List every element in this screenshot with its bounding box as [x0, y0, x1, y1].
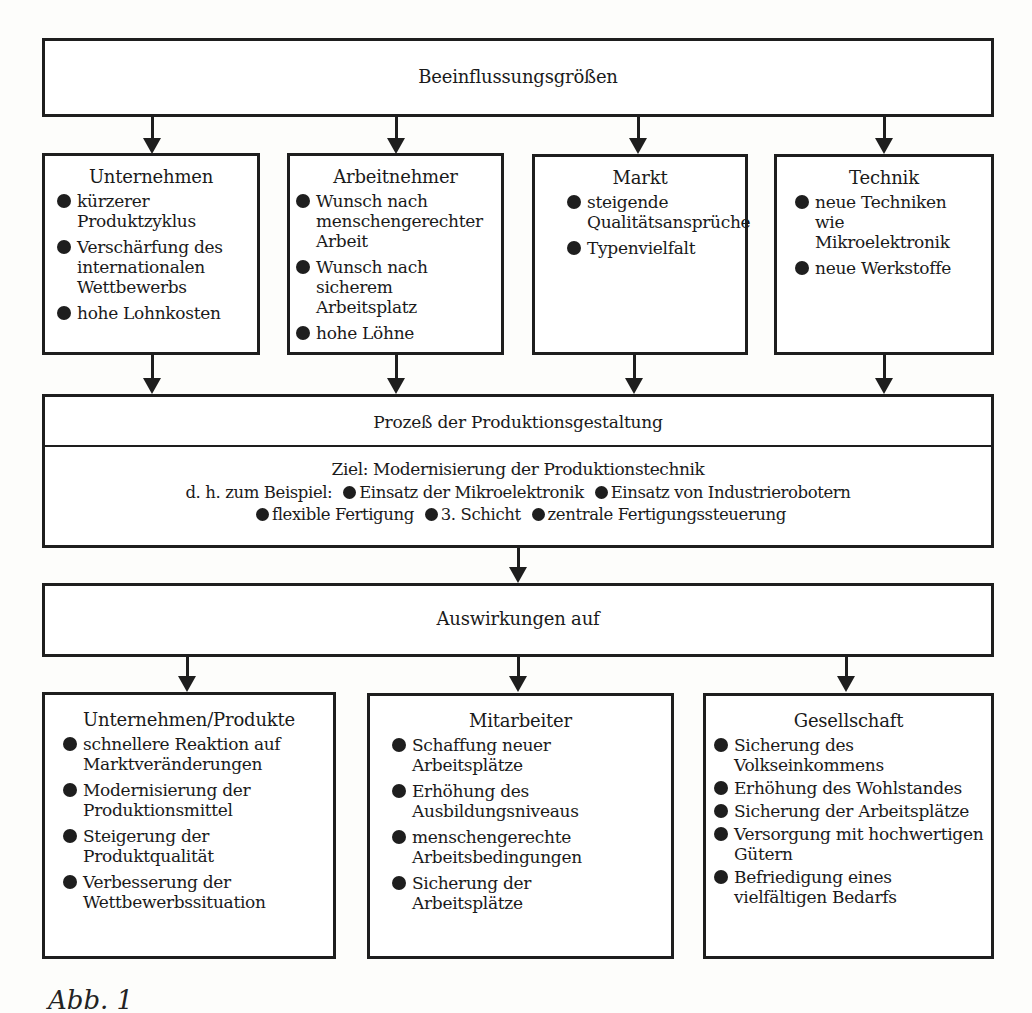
figure-caption: Abb. 1 — [48, 985, 133, 1013]
bullet-icon — [296, 260, 310, 274]
bullet-icon — [595, 486, 608, 499]
examples-label: d. h. zum Beispiel: — [185, 483, 332, 502]
bullet-icon — [63, 829, 77, 843]
list-item: Steigerung der Produktqualität — [59, 826, 327, 866]
bullet-icon — [714, 870, 728, 884]
bullet-icon — [57, 240, 71, 254]
process-goal: Ziel: Modernisierung der Produktionstech… — [45, 459, 991, 479]
influencing-factors-title: Beeinflussungsgrößen — [45, 66, 991, 87]
bullet-icon — [296, 326, 310, 340]
influence-box-markt: Markt steigende Qualitätsansprüche Typen… — [532, 154, 748, 355]
list-item: Schaffung neuer Arbeitsplätze — [388, 735, 611, 775]
list-item: menschengerechte Arbeitsbedingungen — [388, 827, 611, 867]
list-item: Erhöhung des Ausbildungsniveaus — [388, 781, 611, 821]
bullet-icon — [795, 195, 809, 209]
bullet-icon — [714, 827, 728, 841]
list-item: Wunsch nach menschengerechter Arbeit — [292, 191, 495, 251]
impact-box-gesellschaft: Gesellschaft Sicherung des Volkseinkomme… — [703, 693, 994, 959]
bullet-icon — [567, 241, 581, 255]
impact-box-unternehmen-produkte: Unternehmen/Produkte schnellere Reaktion… — [42, 692, 336, 959]
list-item: Sicherung der Arbeitsplätze — [388, 873, 611, 913]
list-item: hohe Lohnkosten — [53, 303, 251, 323]
bullet-icon — [714, 738, 728, 752]
effects-box: Auswirkungen auf — [42, 583, 994, 657]
bullet-icon — [714, 804, 728, 818]
bullet-icon — [392, 738, 406, 752]
example-item: Einsatz von Industrierobotern — [611, 483, 851, 502]
process-examples-row-2: flexible Fertigung 3. Schicht zentrale F… — [45, 505, 991, 524]
list-item: kürzerer Produktzyklus — [53, 191, 251, 231]
bullet-icon — [57, 194, 71, 208]
bullet-icon — [795, 261, 809, 275]
list-item: Erhöhung des Wohlstandes — [710, 778, 985, 798]
bullet-icon — [343, 486, 356, 499]
bullet-icon — [392, 830, 406, 844]
influence-title: Unternehmen — [45, 166, 257, 187]
bullet-icon — [63, 737, 77, 751]
influence-title: Technik — [777, 167, 991, 188]
list-item: Wunsch nach sicherem Arbeitsplatz — [292, 257, 495, 317]
impact-title: Mitarbeiter — [370, 710, 671, 731]
process-divider — [45, 445, 991, 447]
example-item: 3. Schicht — [441, 505, 521, 524]
list-item: Sicherung der Arbeitsplätze — [710, 801, 985, 821]
list-item: Modernisierung der Produktionsmittel — [59, 780, 327, 820]
influencing-factors-box: Beeinflussungsgrößen — [42, 38, 994, 117]
bullet-icon — [392, 876, 406, 890]
bullet-icon — [392, 784, 406, 798]
list-item: Befriedigung eines vielfältigen Bedarfs — [710, 867, 985, 907]
impact-box-mitarbeiter: Mitarbeiter Schaffung neuer Arbeitsplätz… — [367, 693, 674, 959]
bullet-icon — [57, 306, 71, 320]
list-item: hohe Löhne — [292, 323, 495, 343]
bullet-icon — [296, 194, 310, 208]
process-title: Prozeß der Produktionsgestaltung — [45, 412, 991, 432]
bullet-icon — [532, 508, 545, 521]
list-item: Typenvielfalt — [563, 238, 705, 258]
effects-title: Auswirkungen auf — [45, 608, 991, 629]
list-item: Verschärfung des internationalen Wettbew… — [53, 237, 251, 297]
list-item: neue Techniken wie Mikroelektronik — [791, 192, 963, 252]
bullet-icon — [714, 781, 728, 795]
influence-title: Arbeitnehmer — [290, 166, 501, 187]
bullet-icon — [63, 875, 77, 889]
example-item: Einsatz der Mikroelektronik — [359, 483, 584, 502]
list-item: Sicherung des Volkseinkommens — [710, 735, 985, 775]
list-item: schnellere Reaktion auf Marktveränderung… — [59, 734, 327, 774]
bullet-icon — [567, 195, 581, 209]
bullet-icon — [256, 508, 269, 521]
list-item: Verbesserung der Wettbewerbssituation — [59, 872, 327, 912]
list-item: Versorgung mit hochwertigen Gütern — [710, 824, 985, 864]
process-examples-row-1: d. h. zum Beispiel: Einsatz der Mikroele… — [45, 483, 991, 502]
impact-title: Unternehmen/Produkte — [45, 709, 333, 730]
bullet-icon — [63, 783, 77, 797]
list-item: neue Werkstoffe — [791, 258, 963, 278]
impact-title: Gesellschaft — [706, 710, 991, 731]
influence-title: Markt — [535, 167, 745, 188]
example-item: zentrale Fertigungssteuerung — [548, 505, 786, 524]
bullet-icon — [425, 508, 438, 521]
influence-box-unternehmen: Unternehmen kürzerer Produktzyklus Versc… — [42, 153, 260, 355]
influence-box-arbeitnehmer: Arbeitnehmer Wunsch nach menschengerecht… — [287, 153, 504, 355]
list-item: steigende Qualitätsansprüche — [563, 192, 705, 232]
influence-box-technik: Technik neue Techniken wie Mikroelektron… — [774, 154, 994, 355]
process-box: Prozeß der Produktionsgestaltung Ziel: M… — [42, 394, 994, 548]
example-item: flexible Fertigung — [272, 505, 414, 524]
